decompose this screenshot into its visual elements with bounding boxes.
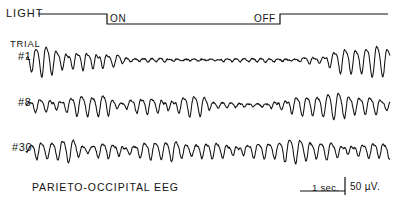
trial-label-1: #1 [18, 50, 31, 62]
figure-caption: PARIETO-OCCIPITAL EEG [32, 181, 179, 193]
trial-label-8: #8 [18, 96, 31, 108]
trial-label-30: #30 [12, 141, 32, 153]
light-label: LIGHT [6, 7, 43, 19]
eeg-figure: LIGHT ON OFF TRIAL #1 #8 #30 PARIETO-OCC… [0, 0, 393, 203]
scale-bar [0, 0, 393, 203]
light-on-label: ON [110, 13, 126, 24]
time-scale-label: 1 sec. [312, 182, 339, 193]
trial-heading: TRIAL [10, 38, 40, 49]
light-off-label: OFF [254, 13, 276, 24]
amplitude-scale-label: 50 µV. [350, 181, 380, 192]
